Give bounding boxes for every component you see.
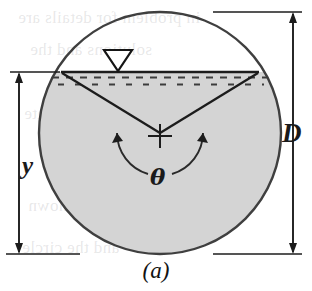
dimension-label-D: D	[282, 118, 302, 149]
pipe-cross-section-figure	[0, 0, 312, 291]
dimension-arrow-y-bottom	[15, 243, 23, 254]
angle-label-theta: θ	[150, 163, 165, 190]
dimension-arrow-D-bottom	[289, 243, 297, 254]
dimension-label-y: y	[22, 152, 33, 180]
dimension-arrow-y-top	[15, 72, 23, 83]
dimension-arrow-D-top	[289, 12, 297, 23]
water-surface-triangle-icon	[104, 50, 132, 71]
figure-caption: (a)	[0, 258, 312, 284]
